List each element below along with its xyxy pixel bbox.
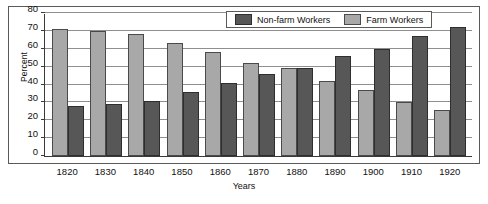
bar-nonfarm-1820 <box>68 106 84 156</box>
bar-farm-1900 <box>358 90 374 156</box>
bar-farm-1830 <box>90 31 106 156</box>
y-tick-50: 50 <box>8 56 42 67</box>
bar-farm-1890 <box>319 81 335 156</box>
y-axis-tick-labels: 01020304050607080 <box>8 6 42 164</box>
bar-farm-1870 <box>243 63 259 156</box>
bar-farm-1840 <box>128 34 144 156</box>
bar-group-1920 <box>431 14 469 156</box>
legend-label: Non-farm Workers <box>257 15 330 25</box>
x-tick-1860: 1860 <box>201 166 239 177</box>
chart-legend: Non-farm WorkersFarm Workers <box>226 11 432 28</box>
x-tick-1840: 1840 <box>125 166 163 177</box>
axis-tick-80 <box>41 12 45 13</box>
legend-label: Farm Workers <box>366 15 423 25</box>
bar-farm-1910 <box>396 102 412 156</box>
x-axis-tick-labels: 1820183018401850186018701880189019001910… <box>44 166 472 177</box>
x-tick-1900: 1900 <box>354 166 392 177</box>
bar-farm-1850 <box>167 43 183 156</box>
x-tick-1920: 1920 <box>431 166 469 177</box>
bar-nonfarm-1920 <box>450 27 466 156</box>
x-tick-1910: 1910 <box>392 166 430 177</box>
y-tick-40: 40 <box>8 74 42 85</box>
bar-farm-1860 <box>205 52 221 156</box>
bar-nonfarm-1890 <box>335 56 351 156</box>
bar-group-1880 <box>278 14 316 156</box>
x-tick-1880: 1880 <box>278 166 316 177</box>
bar-group-1840 <box>125 14 163 156</box>
bar-group-1900 <box>355 14 393 156</box>
bar-group-1890 <box>316 14 354 156</box>
bar-nonfarm-1880 <box>297 68 313 156</box>
bar-group-1820 <box>49 14 87 156</box>
x-axis-label: Years <box>0 181 488 191</box>
x-tick-1830: 1830 <box>86 166 124 177</box>
bar-group-1830 <box>87 14 125 156</box>
x-tick-1850: 1850 <box>163 166 201 177</box>
x-tick-1820: 1820 <box>48 166 86 177</box>
legend-swatch-nonfarm-icon <box>235 14 252 25</box>
legend-item-nonfarm: Non-farm Workers <box>235 14 330 25</box>
bar-nonfarm-1910 <box>412 36 428 156</box>
legend-swatch-farm-icon <box>344 14 361 25</box>
x-tick-1870: 1870 <box>239 166 277 177</box>
plot-area <box>44 14 472 157</box>
chart-screenshot: Percent 01020304050607080 18201830184018… <box>0 0 488 204</box>
y-tick-80: 80 <box>8 3 42 14</box>
y-tick-0: 0 <box>8 146 42 157</box>
bar-nonfarm-1830 <box>106 104 122 156</box>
y-tick-10: 10 <box>8 128 42 139</box>
bar-group-1870 <box>240 14 278 156</box>
bar-nonfarm-1900 <box>374 49 390 156</box>
bar-farm-1920 <box>434 110 450 156</box>
bar-group-1910 <box>393 14 431 156</box>
bar-group-1850 <box>164 14 202 156</box>
bar-farm-1820 <box>52 29 68 156</box>
x-tick-1890: 1890 <box>316 166 354 177</box>
bar-group-1860 <box>202 14 240 156</box>
y-tick-20: 20 <box>8 110 42 121</box>
bar-farm-1880 <box>281 68 297 156</box>
bar-nonfarm-1850 <box>183 92 199 156</box>
y-tick-60: 60 <box>8 38 42 49</box>
bar-groups <box>45 14 472 156</box>
bar-nonfarm-1860 <box>221 83 237 156</box>
bar-nonfarm-1840 <box>144 101 160 156</box>
y-tick-30: 30 <box>8 92 42 103</box>
bar-nonfarm-1870 <box>259 74 275 156</box>
legend-item-farm: Farm Workers <box>344 14 423 25</box>
y-tick-70: 70 <box>8 20 42 31</box>
